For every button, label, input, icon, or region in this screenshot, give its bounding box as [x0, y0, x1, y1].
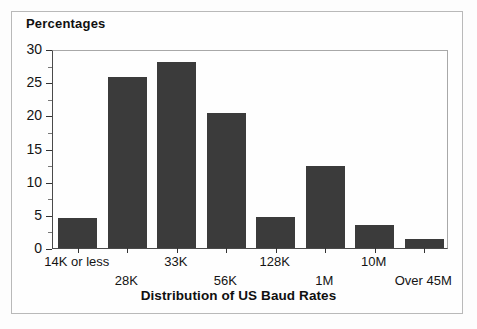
y-axis-tick-label: 10 — [0, 174, 42, 190]
x-axis-tick-label: 128K — [260, 254, 290, 269]
x-axis-tick — [325, 248, 326, 253]
bar — [157, 62, 196, 248]
x-axis-title: Distribution of US Baud Rates — [0, 288, 477, 303]
bar — [405, 239, 444, 248]
y-axis-tick — [46, 50, 52, 51]
y-axis-tick — [46, 116, 52, 117]
bar — [207, 113, 246, 248]
bars-layer — [53, 51, 447, 248]
y-axis-tick-label: 25 — [0, 74, 42, 90]
y-axis-minor-tick — [48, 199, 52, 200]
y-axis-tick-label: 15 — [0, 141, 42, 157]
chart-figure: Percentages 051015202530 14K or less28K3… — [0, 0, 477, 329]
x-axis-tick-label: 1M — [315, 273, 333, 288]
x-axis-tick-label: 56K — [214, 273, 237, 288]
y-axis-minor-tick — [48, 67, 52, 68]
x-axis-tick-label: 10M — [361, 254, 386, 269]
x-axis-tick-label: 14K or less — [44, 254, 109, 269]
bar — [355, 225, 394, 248]
x-axis-tick — [177, 248, 178, 253]
bar — [306, 166, 345, 248]
x-axis-tick — [226, 248, 227, 253]
y-axis-tick-label: 20 — [0, 107, 42, 123]
x-axis-tick-label: 28K — [115, 273, 138, 288]
y-axis-tick — [46, 150, 52, 151]
y-axis-minor-tick — [48, 232, 52, 233]
bar — [256, 217, 295, 248]
y-axis-tick — [46, 216, 52, 217]
y-axis-tick — [46, 83, 52, 84]
x-axis-tick — [127, 248, 128, 253]
y-axis-tick-label: 30 — [0, 41, 42, 57]
x-axis-tick-label: 33K — [164, 254, 187, 269]
y-axis-minor-tick — [48, 100, 52, 101]
y-axis-title: Percentages — [26, 16, 106, 31]
y-axis-minor-tick — [48, 166, 52, 167]
bar — [58, 218, 97, 249]
y-axis-tick-label: 0 — [0, 240, 42, 256]
x-axis-tick — [424, 248, 425, 253]
x-axis-tick — [375, 248, 376, 253]
y-axis-minor-tick — [48, 133, 52, 134]
x-axis-tick-label: Over 45M — [395, 273, 452, 288]
x-axis-tick — [276, 248, 277, 253]
y-axis-tick — [46, 183, 52, 184]
x-axis-tick — [78, 248, 79, 253]
bar — [108, 77, 147, 248]
plot-area — [52, 50, 448, 249]
y-axis-tick — [46, 249, 52, 250]
y-axis-tick-label: 5 — [0, 207, 42, 223]
